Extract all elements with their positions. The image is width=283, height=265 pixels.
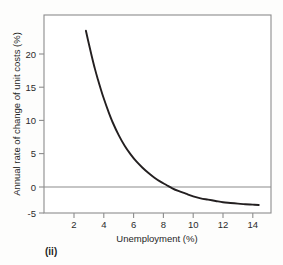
x-tick-label-2: 2	[71, 219, 76, 230]
x-tick-label-8: 8	[161, 219, 166, 230]
x-tick-label-14: 14	[248, 219, 259, 230]
figure-caption: (ii)	[45, 246, 57, 257]
x-tick-label-12: 12	[218, 219, 229, 230]
x-axis-title: Unemployment (%)	[116, 233, 197, 244]
x-axis-ticks	[74, 213, 253, 218]
y-axis-title: Annual rate of change of unit costs (%)	[11, 32, 22, 196]
chart-canvas: 20 15 10 5 0 -5 2 4 6 8 10 12 14 Unemplo…	[0, 0, 283, 265]
y-tick-label-0: 0	[31, 182, 36, 193]
x-tick-label-10: 10	[188, 219, 199, 230]
y-tick-label-10: 10	[25, 115, 36, 126]
figure-container: 20 15 10 5 0 -5 2 4 6 8 10 12 14 Unemplo…	[0, 0, 283, 265]
x-tick-label-6: 6	[131, 219, 136, 230]
y-axis-ticks	[39, 54, 44, 213]
y-tick-label-20: 20	[25, 49, 36, 60]
plot-background	[44, 15, 271, 213]
x-tick-label-4: 4	[101, 219, 106, 230]
y-tick-label-5: 5	[31, 148, 36, 159]
y-tick-label-minus5: -5	[28, 208, 36, 219]
y-tick-label-15: 15	[25, 82, 36, 93]
